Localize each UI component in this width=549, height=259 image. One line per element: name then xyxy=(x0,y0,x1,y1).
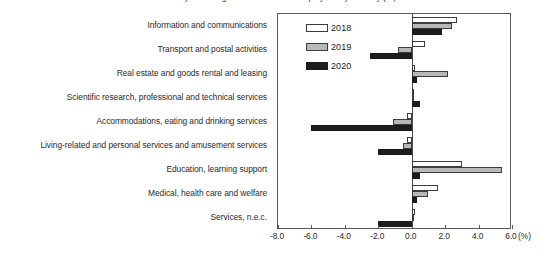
bar-2019-6 xyxy=(412,167,502,173)
x-axis-tick-label: 0.0 xyxy=(405,231,416,241)
bar-2020-3 xyxy=(412,101,420,107)
bar-2018-2 xyxy=(412,65,415,71)
category-label: Information and communications xyxy=(147,19,267,31)
x-axis-tick xyxy=(479,225,480,229)
category-axis-labels: Information and communicationsTransport … xyxy=(0,13,272,229)
bar-2020-6 xyxy=(412,173,420,179)
category-label: Accommodations, eating and drinking serv… xyxy=(96,115,267,127)
legend-label: 2019 xyxy=(331,42,351,52)
bar-2019-1 xyxy=(398,47,411,53)
bar-2018-3 xyxy=(412,89,414,95)
x-axis-tick xyxy=(378,225,379,229)
x-axis-tick-label: 6.0 xyxy=(505,231,516,241)
bar-2020-8 xyxy=(378,221,411,227)
x-axis-tick-label: -8.0 xyxy=(270,231,284,241)
bar-2019-7 xyxy=(412,191,429,197)
bar-2019-4 xyxy=(393,119,411,125)
category-label: Education, learning support xyxy=(166,163,267,175)
x-axis-tick-label: -2.0 xyxy=(370,231,384,241)
bar-2020-7 xyxy=(412,197,417,203)
legend-item-2018[interactable]: 2018 xyxy=(306,20,351,35)
x-axis-tick-label: 4.0 xyxy=(472,231,483,241)
category-label: Services, n.e.c. xyxy=(211,211,267,223)
bar-2020-5 xyxy=(378,149,411,155)
category-label: Scientific research, professional and te… xyxy=(67,91,267,103)
chart-title: Year-on-year change in the number of emp… xyxy=(0,0,549,2)
category-label: Real estate and goods rental and leasing xyxy=(117,67,267,79)
category-label: Transport and postal activities xyxy=(158,43,267,55)
bar-2019-2 xyxy=(412,71,449,77)
bar-2018-0 xyxy=(412,17,457,23)
legend-swatch-icon xyxy=(306,24,328,32)
category-label: Living-related and personal services and… xyxy=(40,139,267,151)
legend-item-2020[interactable]: 2020 xyxy=(306,58,351,73)
legend-swatch-icon xyxy=(306,62,328,70)
bar-2018-5 xyxy=(407,137,412,143)
legend-item-2019[interactable]: 2019 xyxy=(306,39,351,54)
x-axis-tick xyxy=(512,225,513,229)
bar-2018-1 xyxy=(412,41,425,47)
bar-2018-4 xyxy=(407,113,412,119)
x-axis-tick-label: 2.0 xyxy=(438,231,449,241)
chart-legend: 201820192020 xyxy=(306,20,351,77)
bar-2019-5 xyxy=(403,143,411,149)
legend-swatch-icon xyxy=(306,43,328,51)
bar-2020-2 xyxy=(412,77,417,83)
x-axis-tick-label: -4.0 xyxy=(337,231,351,241)
bar-2020-4 xyxy=(311,125,411,131)
x-axis-labels: -8.0-6.0-4.0-2.00.02.04.06.0 xyxy=(277,231,511,245)
legend-label: 2018 xyxy=(331,23,351,33)
x-axis-tick xyxy=(445,225,446,229)
x-axis-tick xyxy=(345,225,346,229)
bar-2018-8 xyxy=(412,209,415,215)
bar-2018-6 xyxy=(412,161,462,167)
bar-2019-3 xyxy=(412,95,414,101)
category-label: Medical, health care and welfare xyxy=(148,187,267,199)
bar-2019-0 xyxy=(412,23,452,29)
legend-label: 2020 xyxy=(331,61,351,71)
x-axis-tick xyxy=(311,225,312,229)
x-axis-tick-label: -6.0 xyxy=(303,231,317,241)
x-axis-unit-label: (%) xyxy=(518,231,531,241)
bar-2020-1 xyxy=(370,53,412,59)
x-axis-tick xyxy=(412,225,413,229)
bar-2019-8 xyxy=(412,215,414,221)
x-axis-tick xyxy=(278,225,279,229)
bar-chart: Year-on-year change in the number of emp… xyxy=(0,0,549,259)
bar-2018-7 xyxy=(412,185,439,191)
bar-2020-0 xyxy=(412,29,442,35)
